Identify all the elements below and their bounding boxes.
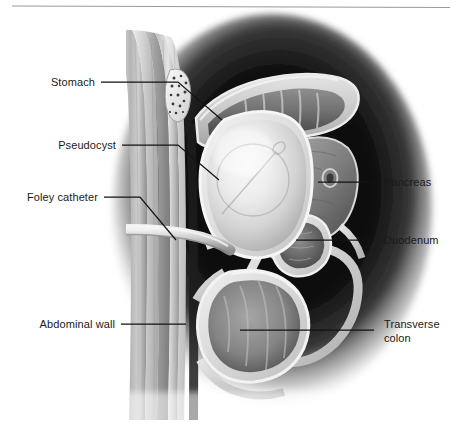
transverse-colon-group	[197, 270, 308, 382]
label-transverse-colon: Transverse	[384, 318, 440, 330]
pancreatic-duct-lumen	[327, 174, 334, 183]
label-stomach: Stomach	[51, 76, 95, 88]
label-pancreas: Pancreas	[384, 176, 432, 188]
anatomical-figure: Stomach Pseudocyst Foley catheter Abdomi…	[0, 0, 459, 438]
label-duodenum: Duodenum	[384, 234, 439, 246]
header-rule	[12, 6, 450, 8]
pseudocyst-highlight	[213, 128, 273, 176]
label-transverse-colon-line2: colon	[384, 332, 411, 344]
label-abdominal-wall: Abdominal wall	[40, 318, 115, 330]
pseudocyst-group	[200, 111, 312, 258]
illustration-canvas: Stomach Pseudocyst Foley catheter Abdomi…	[0, 0, 459, 438]
illustration-body	[96, 14, 432, 438]
bottom-fade	[120, 392, 420, 438]
label-foley-catheter: Foley catheter	[27, 191, 98, 203]
label-pseudocyst: Pseudocyst	[58, 139, 116, 151]
umbilicus-group	[165, 69, 191, 122]
